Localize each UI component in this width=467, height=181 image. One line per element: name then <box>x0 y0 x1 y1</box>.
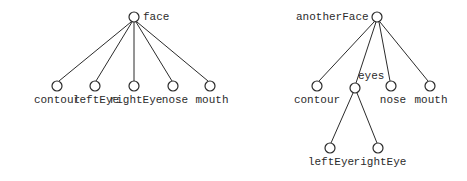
edge-face-nose <box>136 22 172 81</box>
label-face: face <box>143 11 169 23</box>
node-anotherFace[interactable] <box>372 12 382 22</box>
label-right-rightEye: rightEye <box>354 156 407 168</box>
label-left-rightEye: rightEye <box>110 94 163 106</box>
label-anotherFace: anotherFace <box>296 11 369 23</box>
node-right-leftEye[interactable] <box>325 143 335 153</box>
left-tree-edges <box>59 22 208 81</box>
label-right-nose: nose <box>380 94 406 106</box>
tree-edges-and-nodes <box>0 0 467 181</box>
label-right-mouth: mouth <box>414 94 447 106</box>
label-right-eyes: eyes <box>358 70 384 82</box>
node-left-contour[interactable] <box>52 81 62 91</box>
label-right-leftEye: leftEye <box>308 156 354 168</box>
right-tree-nodes <box>312 12 435 153</box>
node-right-contour[interactable] <box>312 81 322 91</box>
node-right-mouth[interactable] <box>425 81 435 91</box>
label-left-mouth: mouth <box>195 94 228 106</box>
label-right-contour: contour <box>294 94 340 106</box>
node-right-eyes[interactable] <box>350 83 360 93</box>
edge-face-contour <box>59 22 131 81</box>
edge-anotherFace-mouth <box>380 22 428 81</box>
node-left-leftEye[interactable] <box>90 81 100 91</box>
node-left-rightEye[interactable] <box>129 81 139 91</box>
edge-eyes-rightEye <box>357 93 377 143</box>
node-left-mouth[interactable] <box>205 81 215 91</box>
node-left-nose[interactable] <box>168 81 178 91</box>
edge-face-leftEye <box>96 22 132 81</box>
label-left-nose: nose <box>162 94 188 106</box>
tree-diagram-figure: face contour leftEye rightEye nose mouth… <box>0 0 467 181</box>
edge-face-mouth <box>137 22 208 81</box>
node-face[interactable] <box>129 12 139 22</box>
node-right-rightEye[interactable] <box>373 143 383 153</box>
right-tree-edges <box>319 22 428 143</box>
node-right-nose[interactable] <box>386 81 396 91</box>
